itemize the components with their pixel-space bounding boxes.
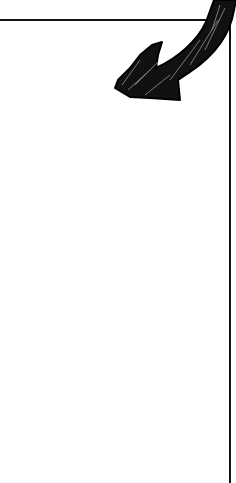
scribble-arrow-icon	[0, 0, 236, 110]
